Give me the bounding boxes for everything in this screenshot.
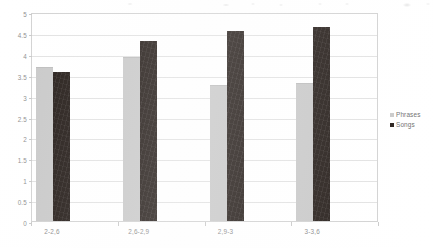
y-axis-tick-label: 1.5 (18, 157, 27, 164)
x-axis-tick-label: 3-3,6 (305, 228, 320, 235)
y-axis-tick-label: 2 (23, 136, 27, 143)
bar-group (123, 14, 157, 221)
scan-bleed-artifact (0, 0, 433, 9)
x-axis-tick-label: 2-2,6 (44, 228, 59, 235)
y-axis-tick (29, 160, 32, 161)
y-axis-tick-label: 4 (23, 52, 27, 59)
y-axis-tick (29, 119, 32, 120)
legend-label: Songs (396, 121, 415, 128)
x-axis-tick (118, 222, 119, 226)
bar-phrases (123, 57, 140, 221)
bar-group (296, 14, 330, 221)
legend-item: Phrases (390, 110, 433, 119)
bar-group (36, 14, 70, 221)
bar-chart: 00.511.522.533.544.55 2-2,62,6-2,92,9-33… (0, 0, 433, 248)
legend-item: Songs (390, 120, 433, 129)
x-axis-tick (378, 222, 379, 226)
plot-area: 00.511.522.533.544.55 (31, 13, 378, 222)
bar-phrases (210, 85, 227, 221)
bar-songs (313, 27, 330, 221)
chart-legend: PhrasesSongs (390, 110, 433, 130)
y-axis-tick-label: 5 (23, 11, 27, 18)
y-axis-tick-label: 4.5 (18, 31, 27, 38)
bar-songs (53, 72, 70, 221)
y-axis-tick (29, 14, 32, 15)
y-axis-tick (29, 181, 32, 182)
y-axis-tick (29, 56, 32, 57)
y-axis-tick-label: 3.5 (18, 73, 27, 80)
bar-songs (227, 31, 244, 221)
x-axis-tick (31, 222, 32, 226)
y-axis-tick-label: 0.5 (18, 199, 27, 206)
bar-group (210, 14, 244, 221)
y-axis-tick-label: 1 (23, 178, 27, 185)
y-axis-tick-label: 2.5 (18, 115, 27, 122)
y-axis-tick-label: 3 (23, 94, 27, 101)
y-axis-tick-label: 0 (23, 220, 27, 227)
legend-label: Phrases (396, 111, 421, 118)
legend-swatch-icon (390, 123, 394, 127)
y-axis-tick (29, 139, 32, 140)
x-axis-tick (291, 222, 292, 226)
x-axis-tick-label: 2,9-3 (218, 228, 233, 235)
bar-songs (140, 41, 157, 221)
y-axis-tick (29, 202, 32, 203)
y-axis-tick (29, 77, 32, 78)
y-axis-tick (29, 98, 32, 99)
legend-swatch-icon (390, 113, 394, 117)
x-axis: 2-2,62,6-2,92,9-33-3,6 (31, 228, 378, 242)
x-axis-tick (205, 222, 206, 226)
y-axis-tick (29, 35, 32, 36)
bar-phrases (296, 83, 313, 221)
bar-phrases (36, 67, 53, 221)
x-axis-tick-label: 2,6-2,9 (128, 228, 149, 235)
